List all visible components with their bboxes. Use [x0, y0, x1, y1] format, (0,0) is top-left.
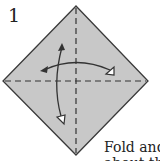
origami-diagram	[0, 0, 160, 161]
caption-line-1: Fold and	[104, 139, 160, 155]
instruction-caption: Fold and about the	[104, 139, 160, 161]
caption-line-2: about the	[104, 155, 160, 161]
